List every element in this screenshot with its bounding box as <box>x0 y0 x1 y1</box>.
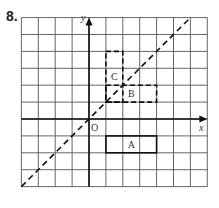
shape-label-b: B <box>128 88 135 99</box>
origin-label: O <box>91 122 98 133</box>
y-axis-arrow-icon <box>86 18 93 26</box>
shape-label-c: C <box>111 71 118 82</box>
shape-label-a: A <box>128 139 136 150</box>
x-axis-label: x <box>198 122 204 133</box>
coordinate-grid-diagram: ABCyxO <box>0 0 219 208</box>
y-axis-label: y <box>80 12 86 23</box>
